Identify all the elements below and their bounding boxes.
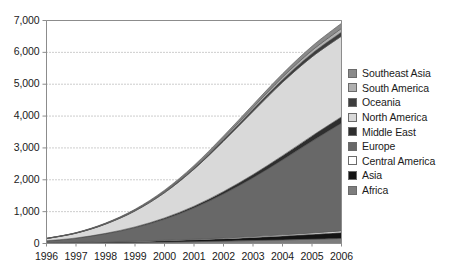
y-axis-tick-label: 1,000 bbox=[14, 205, 40, 217]
y-axis-tick-label: 7,000 bbox=[14, 14, 40, 26]
legend-label: Africa bbox=[362, 184, 388, 196]
legend-swatch-icon bbox=[348, 186, 357, 195]
legend-item[interactable]: South America bbox=[348, 81, 453, 96]
legend-swatch-icon bbox=[348, 69, 357, 78]
legend-label: North America bbox=[362, 111, 427, 123]
y-axis-tick-label: 6,000 bbox=[14, 45, 40, 57]
stacked-area-chart: 01,0002,0003,0004,0005,0006,0007,000 199… bbox=[0, 0, 453, 276]
y-axis-tick-label: 0 bbox=[34, 237, 40, 249]
legend-item[interactable]: Southeast Asia bbox=[348, 66, 453, 81]
legend-label: Oceania bbox=[362, 96, 400, 108]
area-series-layer bbox=[47, 23, 342, 243]
legend-swatch-icon bbox=[348, 156, 357, 165]
legend-label: Asia bbox=[362, 169, 382, 181]
legend-item[interactable]: Oceania bbox=[348, 95, 453, 110]
chart-legend: Southeast AsiaSouth AmericaOceaniaNorth … bbox=[348, 66, 453, 197]
legend-label: Southeast Asia bbox=[362, 67, 431, 79]
y-axis-tick-label: 2,000 bbox=[14, 173, 40, 185]
legend-item[interactable]: Europe bbox=[348, 139, 453, 154]
legend-item[interactable]: North America bbox=[348, 110, 453, 125]
legend-item[interactable]: Central America bbox=[348, 154, 453, 169]
legend-item[interactable]: Middle East bbox=[348, 124, 453, 139]
legend-label: Europe bbox=[362, 140, 395, 152]
legend-swatch-icon bbox=[348, 171, 357, 180]
x-axis-tick-label: 2006 bbox=[322, 250, 362, 262]
legend-item[interactable]: Asia bbox=[348, 168, 453, 183]
legend-item[interactable]: Africa bbox=[348, 183, 453, 198]
legend-label: South America bbox=[362, 82, 429, 94]
legend-swatch-icon bbox=[348, 113, 357, 122]
y-axis-tick-label: 4,000 bbox=[14, 109, 40, 121]
legend-swatch-icon bbox=[348, 127, 357, 136]
legend-label: Middle East bbox=[362, 126, 416, 138]
legend-swatch-icon bbox=[348, 142, 357, 151]
legend-swatch-icon bbox=[348, 83, 357, 92]
legend-swatch-icon bbox=[348, 98, 357, 107]
y-axis-tick-label: 3,000 bbox=[14, 141, 40, 153]
y-axis-tick-label: 5,000 bbox=[14, 77, 40, 89]
legend-label: Central America bbox=[362, 155, 435, 167]
